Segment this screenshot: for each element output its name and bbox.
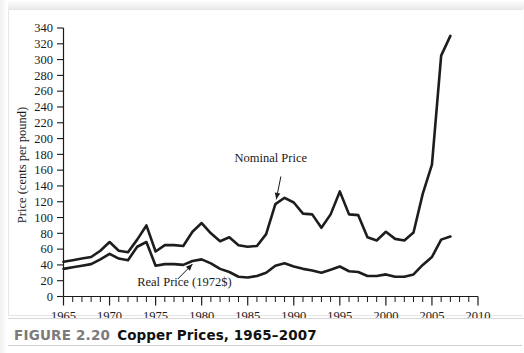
x-tick-label: 1985 (235, 309, 260, 319)
y-tick-label: 280 (34, 69, 53, 83)
copper-prices-chart: Price (cents per pound) 0204060801001201… (0, 0, 524, 318)
y-tick-label: 20 (41, 274, 54, 288)
y-tick-label: 180 (34, 148, 53, 162)
figure-caption: FIGURE 2.20Copper Prices, 1965–2007 (14, 325, 317, 344)
y-tick-label: 60 (41, 242, 54, 256)
y-tick-label: 260 (34, 84, 53, 98)
y-tick-label: 200 (34, 132, 53, 146)
y-tick-label: 120 (34, 195, 53, 209)
chart-svg: Price (cents per pound) 0204060801001201… (0, 0, 524, 318)
series-line-nominal-price (64, 36, 451, 262)
x-tick-label: 1995 (327, 309, 352, 319)
x-tick-label: 1965 (51, 309, 76, 319)
y-tick-label: 0 (47, 290, 53, 304)
figure-page: Price (cents per pound) 0204060801001201… (0, 0, 524, 353)
x-axis-ticks: 1965197019751980198519901995200020052010 (51, 297, 491, 319)
x-tick-label: 1975 (143, 309, 168, 319)
y-axis-ticks: 0204060801001201401601802002202402602803… (34, 21, 63, 304)
x-tick-label: 2010 (466, 309, 491, 319)
figure-title: Copper Prices, 1965–2007 (117, 327, 317, 343)
x-tick-label: 2000 (373, 309, 398, 319)
scan-edge-left (0, 0, 8, 353)
annotation-real-price-label: Real Price (1972$) (137, 275, 231, 289)
y-tick-label: 320 (34, 37, 53, 51)
annotation-nominal-price-label: Nominal Price (234, 151, 307, 165)
x-tick-label: 1980 (189, 309, 214, 319)
y-tick-label: 80 (41, 227, 54, 241)
annotation-nominal-price-arrowhead (275, 192, 280, 199)
y-tick-label: 220 (34, 116, 53, 130)
y-tick-label: 100 (34, 211, 53, 225)
y-tick-label: 160 (34, 163, 53, 177)
x-tick-label: 2005 (419, 309, 444, 319)
figure-caption-bar: FIGURE 2.20Copper Prices, 1965–2007 (0, 318, 524, 353)
series-line-real-price (64, 236, 451, 277)
y-tick-label: 240 (34, 100, 53, 114)
y-tick-label: 300 (34, 53, 53, 67)
caption-divider (8, 345, 522, 346)
y-tick-label: 140 (34, 179, 53, 193)
figure-number: FIGURE 2.20 (14, 327, 110, 343)
x-tick-label: 1970 (97, 309, 122, 319)
y-tick-label: 40 (41, 258, 54, 272)
y-axis-title: Price (cents per pound) (15, 107, 29, 223)
annotation-nominal-price: Nominal Price (234, 151, 307, 199)
x-tick-label: 1990 (281, 309, 306, 319)
y-tick-label: 340 (34, 21, 53, 35)
y-axis-label: Price (cents per pound) (15, 107, 29, 223)
